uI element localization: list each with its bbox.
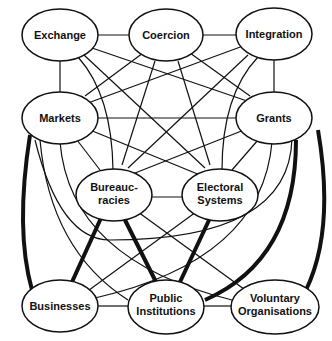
node-label: Businesses <box>29 300 90 312</box>
node-label: Coercion <box>142 29 190 41</box>
node-coercion: Coercion <box>129 9 203 61</box>
node-electoral-systems: Electoral Systems <box>182 169 258 221</box>
node-label: Voluntary <box>250 292 301 304</box>
node-bureaucracies: Bureauc- racies <box>76 169 152 221</box>
strong-edges <box>23 130 324 300</box>
node-label: racies <box>98 194 130 206</box>
node-label: Institutions <box>136 305 195 317</box>
node-voluntary-organisations: Voluntary Organisations <box>231 280 319 334</box>
node-label: Organisations <box>238 305 312 317</box>
node-label: Systems <box>197 194 242 206</box>
node-businesses: Businesses <box>22 280 98 332</box>
node-label: Integration <box>246 28 303 40</box>
node-exchange: Exchange <box>22 9 98 61</box>
node-public-institutions: Public Institutions <box>128 280 204 334</box>
node-integration: Integration <box>236 8 312 60</box>
node-label: Grants <box>256 112 291 124</box>
node-label: Exchange <box>34 29 86 41</box>
node-markets: Markets <box>22 92 98 144</box>
node-label: Electoral <box>197 181 243 193</box>
node-label: Bureauc- <box>90 181 138 193</box>
node-label: Markets <box>39 112 81 124</box>
institutions-network-diagram: Exchange Coercion Integration Markets Gr… <box>0 0 332 341</box>
node-label: Public <box>149 292 182 304</box>
node-grants: Grants <box>236 92 312 144</box>
